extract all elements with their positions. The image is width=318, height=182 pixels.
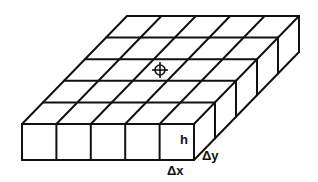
grid-block-diagram <box>0 0 318 182</box>
label-dy: Δy <box>202 149 219 162</box>
crosshair-icon <box>152 62 168 78</box>
label-height: h <box>180 133 188 146</box>
label-dx: Δx <box>167 164 184 177</box>
